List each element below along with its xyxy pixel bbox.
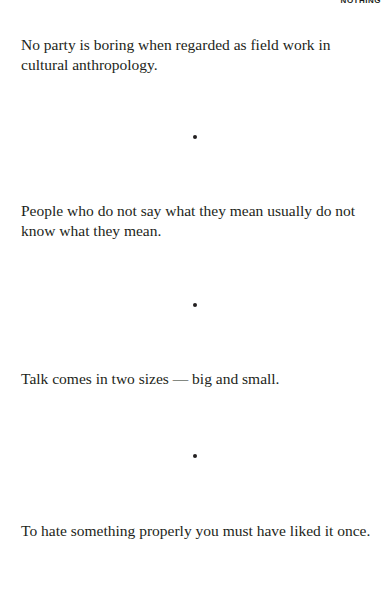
separator-bullet-2 bbox=[193, 303, 197, 307]
separator-bullet-1 bbox=[193, 135, 197, 139]
running-header: NOTHING bbox=[341, 0, 381, 5]
separator-bullet-3 bbox=[193, 454, 197, 458]
quote-1: No party is boring when regarded as fiel… bbox=[21, 35, 371, 74]
quote-2: People who do not say what they mean usu… bbox=[21, 201, 371, 240]
quote-4: To hate something properly you must have… bbox=[21, 521, 371, 541]
quote-3: Talk comes in two sizes — big and small. bbox=[21, 369, 371, 389]
